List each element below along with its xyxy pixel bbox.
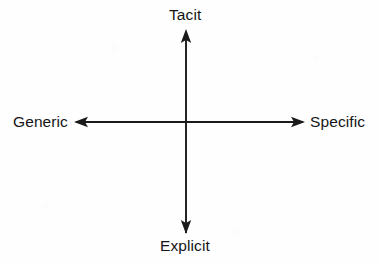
axis-label-bottom-explicit: Explicit — [160, 237, 210, 254]
axis-label-top-tacit: Tacit — [169, 6, 201, 23]
axis-label-left-generic: Generic — [13, 113, 68, 130]
diagram-canvas: Tacit Explicit Generic Specific — [0, 0, 380, 264]
axis-label-right-specific: Specific — [310, 113, 365, 130]
axes-graphic — [0, 0, 380, 264]
